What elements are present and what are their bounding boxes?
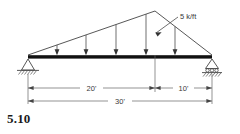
- structural-diagram-figure: 5 k/ft: [0, 0, 240, 134]
- load-arrow-head-4: [144, 49, 149, 55]
- beam-body: [28, 55, 212, 58]
- pin-support-hatching: [19, 71, 37, 75]
- dimension-label-10: 10': [179, 84, 189, 93]
- truss-beam-diagram: 5 k/ft: [0, 0, 240, 134]
- load-arrow-head-1: [55, 49, 60, 55]
- main-beam: [28, 55, 212, 58]
- load-arrow-head-5: [173, 49, 178, 55]
- dimension-left-span: 20': [28, 83, 155, 94]
- dimension-total-span: 30': [28, 96, 212, 107]
- pin-support-left: [17, 59, 39, 75]
- dimension-right-span: 10': [155, 83, 212, 94]
- dimension-arrow-10-left: [155, 86, 161, 90]
- load-magnitude-label: 5 k/ft: [180, 12, 197, 21]
- roller-support-wheels: [206, 69, 218, 72]
- dimension-arrow-10-right: [206, 86, 212, 90]
- roller-support-triangle: [206, 59, 219, 69]
- dimension-arrow-20-left: [28, 86, 34, 90]
- dimension-label-20: 20': [87, 84, 97, 93]
- leader-arrow-head: [155, 32, 161, 36]
- pin-support-triangle: [22, 59, 35, 70]
- problem-number-label: 5.10: [7, 112, 31, 125]
- dimension-arrow-20-right: [149, 86, 155, 90]
- dimension-arrow-30-left: [28, 99, 34, 103]
- roller-support-right: [202, 59, 222, 77]
- dimension-label-30: 30': [115, 97, 125, 106]
- load-arrow-head-2: [84, 49, 89, 55]
- load-arrow-head-3: [114, 49, 119, 55]
- left-top-chord: [28, 11, 155, 55]
- dimension-arrow-30-right: [206, 99, 212, 103]
